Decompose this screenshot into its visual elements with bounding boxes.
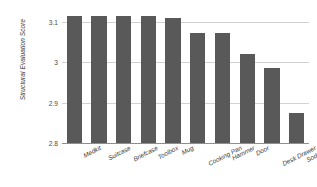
bar xyxy=(264,68,279,143)
x-tick-label: Briefcase xyxy=(132,144,159,162)
x-tick-label: Toolbox xyxy=(156,144,179,160)
bar xyxy=(215,33,230,143)
y-axis-title: Structural Evaluation Score xyxy=(19,0,26,120)
bar xyxy=(141,16,156,143)
bar xyxy=(165,18,180,143)
y-tick-label: 2.9 xyxy=(38,99,58,106)
x-tick-label: Medkit xyxy=(82,144,102,159)
x-tick-label: Mug xyxy=(180,144,194,156)
y-tick-label: 2.8 xyxy=(38,140,58,147)
bar xyxy=(289,113,304,143)
x-axis-tick-labels: MedkitSuitcaseBriefcaseToolboxMugCooking… xyxy=(62,144,309,187)
x-tick-label: Door xyxy=(254,144,270,157)
x-tick-label: Suitcase xyxy=(107,144,132,161)
y-axis-tick-labels: 2.82.933.1 xyxy=(36,6,58,143)
y-tick-label: 3.1 xyxy=(38,19,58,26)
bar xyxy=(116,16,131,143)
bar xyxy=(240,54,255,143)
y-tick-label: 3 xyxy=(38,59,58,66)
bar-chart: Structural Evaluation Score 2.82.933.1 M… xyxy=(0,0,317,187)
bar xyxy=(91,16,106,143)
plot-area xyxy=(62,6,309,143)
bar xyxy=(67,16,82,143)
bar xyxy=(190,33,205,143)
bars-group xyxy=(62,6,309,143)
